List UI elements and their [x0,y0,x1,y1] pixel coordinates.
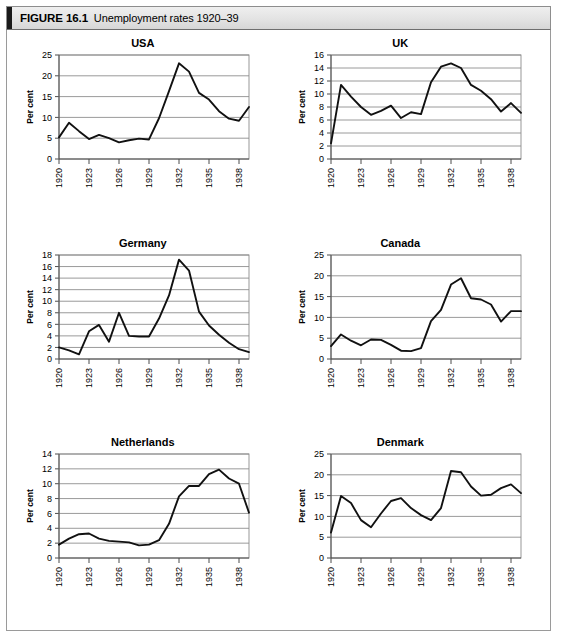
y-tick-label: 0 [318,354,323,364]
y-tick-label: 10 [42,296,52,306]
y-tick-label: 8 [318,102,323,112]
y-tick-label: 10 [313,512,323,522]
y-axis-label: Per cent [25,90,35,124]
y-tick-label: 8 [47,308,52,318]
y-tick-label: 18 [42,250,52,260]
x-tick-label: 1923 [84,168,94,188]
y-tick-label: 2 [47,539,52,549]
series-line [331,278,521,351]
y-tick-label: 6 [318,115,323,125]
x-tick-label: 1923 [356,168,366,188]
x-tick-label: 1935 [204,567,214,587]
x-tick-label: 1932 [446,567,456,587]
series-line [59,470,249,546]
x-tick-label: 1920 [54,168,64,188]
x-tick-label: 1932 [446,368,456,388]
chart-svg-canada: 05101520251920192319261929193219351938Pe… [279,231,551,431]
chart-netherlands: Netherlands 0246810121419201923192619291… [7,430,279,630]
y-tick-label: 12 [313,76,323,86]
y-tick-label: 0 [318,154,323,164]
x-tick-label: 1920 [326,368,336,388]
figure-title-label: Unemployment rates 1920–39 [94,12,239,24]
x-tick-label: 1923 [356,368,366,388]
y-tick-label: 10 [42,479,52,489]
figure-number-label: FIGURE 16.1 [20,12,88,24]
x-tick-label: 1938 [234,368,244,388]
x-tick-label: 1932 [174,368,184,388]
y-tick-label: 6 [47,319,52,329]
y-tick-label: 15 [313,291,323,301]
x-tick-label: 1929 [416,168,426,188]
y-tick-label: 20 [313,470,323,480]
y-tick-label: 15 [313,491,323,501]
x-tick-label: 1926 [114,567,124,587]
chart-canada: Canada 051015202519201923192619291932193… [279,231,551,431]
x-tick-label: 1920 [54,567,64,587]
x-tick-label: 1923 [84,567,94,587]
x-tick-label: 1926 [386,567,396,587]
x-tick-label: 1929 [416,567,426,587]
figure-root: FIGURE 16.1 Unemployment rates 1920–39 U… [0,0,561,643]
y-tick-label: 2 [318,141,323,151]
y-tick-label: 25 [313,450,323,460]
x-tick-label: 1935 [476,168,486,188]
x-tick-label: 1932 [446,168,456,188]
x-tick-label: 1938 [506,168,516,188]
series-line [59,259,249,354]
y-tick-label: 15 [42,92,52,102]
x-tick-label: 1932 [174,168,184,188]
y-tick-label: 4 [47,331,52,341]
x-tick-label: 1920 [54,368,64,388]
y-tick-label: 4 [47,524,52,534]
y-tick-label: 0 [47,154,52,164]
x-tick-label: 1929 [144,368,154,388]
x-tick-label: 1923 [84,368,94,388]
figure-caption-band: FIGURE 16.1 Unemployment rates 1920–39 [6,6,551,30]
x-tick-label: 1935 [476,368,486,388]
x-tick-label: 1926 [386,368,396,388]
chart-uk: UK 0246810121416192019231926192919321935… [279,31,551,231]
chart-denmark: Denmark 05101520251920192319261929193219… [279,430,551,630]
y-tick-label: 6 [47,509,52,519]
y-tick-label: 16 [42,261,52,271]
y-tick-label: 16 [313,50,323,60]
figure-caption-text: FIGURE 16.1 Unemployment rates 1920–39 [12,12,239,24]
y-tick-label: 12 [42,464,52,474]
y-axis-label: Per cent [25,489,35,523]
y-tick-label: 4 [318,128,323,138]
x-tick-label: 1920 [326,168,336,188]
x-tick-label: 1929 [144,168,154,188]
chart-svg-denmark: 05101520251920192319261929193219351938Pe… [279,430,551,630]
x-tick-label: 1926 [114,368,124,388]
x-tick-label: 1938 [234,168,244,188]
x-tick-label: 1938 [506,368,516,388]
chart-svg-germany: 0246810121416181920192319261929193219351… [7,231,279,431]
y-tick-label: 12 [42,285,52,295]
x-tick-label: 1932 [174,567,184,587]
y-tick-label: 10 [42,113,52,123]
x-tick-label: 1926 [114,168,124,188]
y-tick-label: 5 [47,133,52,143]
y-tick-label: 25 [42,50,52,60]
y-axis-label: Per cent [297,489,307,523]
y-axis-label: Per cent [297,90,307,124]
y-tick-label: 0 [47,354,52,364]
y-tick-label: 5 [318,333,323,343]
y-tick-label: 5 [318,533,323,543]
x-tick-label: 1935 [476,567,486,587]
y-tick-label: 20 [313,271,323,281]
y-tick-label: 25 [313,250,323,260]
x-tick-label: 1929 [144,567,154,587]
series-line [331,471,521,533]
y-tick-label: 0 [47,554,52,564]
y-tick-label: 10 [313,89,323,99]
y-tick-label: 2 [47,342,52,352]
y-tick-label: 0 [318,554,323,564]
x-tick-label: 1920 [326,567,336,587]
y-tick-label: 14 [42,273,52,283]
x-tick-label: 1923 [356,567,366,587]
x-tick-label: 1926 [386,168,396,188]
charts-grid: USA 051015202519201923192619291932193519… [7,31,550,630]
chart-svg-uk: 0246810121416192019231926192919321935193… [279,31,551,231]
chart-svg-usa: 05101520251920192319261929193219351938Pe… [7,31,279,231]
